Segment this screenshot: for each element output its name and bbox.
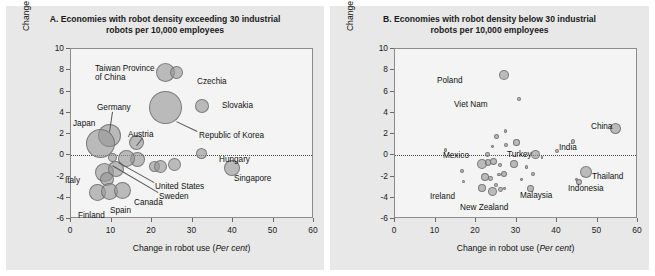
series-label-of-china: of China xyxy=(95,73,126,82)
y-tick-label-a-8: 8 xyxy=(42,65,64,73)
series-label-thailand: Thailand xyxy=(592,172,623,181)
x-axis-title-a-close: ) xyxy=(247,243,250,253)
y-tick-mark-b-2 xyxy=(390,133,394,134)
bubble-new-zealand[interactable] xyxy=(488,187,497,196)
series-label-ireland: Ireland xyxy=(430,192,455,201)
y-tick-label-a-0: 0 xyxy=(42,150,64,158)
bubble-czechia[interactable] xyxy=(170,66,183,79)
y-tick-mark-a-10 xyxy=(66,48,70,49)
bubble-thailand[interactable] xyxy=(580,166,592,178)
x-tick-mark-b-60 xyxy=(637,218,638,222)
x-tick-mark-b-50 xyxy=(597,218,598,222)
bubble-mexico[interactable] xyxy=(485,152,490,157)
x-tick-label-b-10: 10 xyxy=(423,226,447,234)
x-tick-label-a-10: 10 xyxy=(99,226,123,234)
bubble-canada[interactable] xyxy=(114,182,131,199)
bubble-unlabeled-4[interactable] xyxy=(168,158,181,171)
bubble-hungary[interactable] xyxy=(196,148,207,159)
x-tick-mark-a-30 xyxy=(192,218,193,222)
y-tick-label-b-neg4: -4 xyxy=(366,193,388,201)
panel-b-title-line2: robots per 10,000 employees xyxy=(431,25,549,35)
series-label-united-states: United States xyxy=(155,182,204,191)
x-tick-mark-a-50 xyxy=(273,218,274,222)
bubble-unlabeled-1[interactable] xyxy=(504,129,508,133)
bubble-unlabeled-12[interactable] xyxy=(498,163,502,167)
bubble-slovakia[interactable] xyxy=(195,99,209,113)
x-tick-mark-a-40 xyxy=(232,218,233,222)
y-axis-title-b-line2: (Percentage points) xyxy=(356,0,366,46)
y-axis-title-b-line1: Change in manufacturing output share xyxy=(346,0,356,46)
x-tick-mark-b-40 xyxy=(556,218,557,222)
panel-a-title: A. Economies with robot density exceedin… xyxy=(12,14,318,36)
y-tick-label-b-10: 10 xyxy=(366,44,388,52)
bubble-unlabeled-5[interactable] xyxy=(491,145,494,148)
bubble-unlabeled-8[interactable] xyxy=(541,156,544,159)
x-tick-label-b-20: 20 xyxy=(463,226,487,234)
bubble-unlabeled-23[interactable] xyxy=(462,180,465,183)
bubble-unlabeled-17[interactable] xyxy=(501,171,507,177)
series-label-republic-of-korea: Republic of Korea xyxy=(199,131,264,140)
bubble-unlabeled-20[interactable] xyxy=(488,176,493,181)
series-label-malaysia: Malaysia xyxy=(520,191,552,200)
x-axis-title-a: Change in robot use (Per cent) xyxy=(70,243,313,253)
bubble-poland[interactable] xyxy=(499,70,509,80)
x-tick-mark-a-10 xyxy=(111,218,112,222)
bubble-unlabeled-13[interactable] xyxy=(510,160,518,168)
y-tick-mark-a-4 xyxy=(66,112,70,113)
x-tick-mark-a-20 xyxy=(151,218,152,222)
y-tick-mark-a-neg4 xyxy=(66,197,70,198)
bubble-unlabeled-3[interactable] xyxy=(154,160,167,173)
series-label-slovakia: Slovakia xyxy=(222,101,253,110)
x-axis-title-b-unit: Per cent xyxy=(539,243,571,253)
y-tick-mark-b-0 xyxy=(390,154,394,155)
bubble-unlabeled-3[interactable] xyxy=(513,139,519,145)
bubble-unlabeled-14[interactable] xyxy=(525,165,528,168)
series-label-germany: Germany xyxy=(97,103,131,112)
panel-b-title: B. Economies with robot density below 30… xyxy=(336,14,643,36)
series-label-japan: Japan xyxy=(73,119,95,128)
x-tick-mark-b-10 xyxy=(435,218,436,222)
x-axis-title-b: Change in robot use (Per cent) xyxy=(394,243,637,253)
series-label-spain: Spain xyxy=(110,206,131,215)
y-tick-label-a-4: 4 xyxy=(42,108,64,116)
bubble-unlabeled-11[interactable] xyxy=(490,158,497,165)
x-tick-label-b-50: 50 xyxy=(585,226,609,234)
x-tick-mark-b-20 xyxy=(475,218,476,222)
y-tick-mark-b-10 xyxy=(390,48,394,49)
series-label-mexico: Mexico xyxy=(443,151,469,160)
y-tick-label-a-neg2: -2 xyxy=(42,172,64,180)
y-tick-mark-a-0 xyxy=(66,154,70,155)
x-tick-label-a-0: 0 xyxy=(58,226,82,234)
bubble-unlabeled-4[interactable] xyxy=(504,143,508,147)
y-tick-label-b-neg2: -2 xyxy=(366,172,388,180)
series-label-poland: Poland xyxy=(437,76,463,85)
bubble-ireland[interactable] xyxy=(478,184,486,192)
series-label-india: India xyxy=(559,143,577,152)
y-tick-mark-b-neg4 xyxy=(390,197,394,198)
x-tick-label-b-40: 40 xyxy=(544,226,568,234)
y-tick-label-a-6: 6 xyxy=(42,87,64,95)
bubble-viet-nam[interactable] xyxy=(517,97,521,101)
bubble-unlabeled-18[interactable] xyxy=(497,173,501,177)
y-tick-label-b-neg6: -6 xyxy=(366,214,388,222)
y-tick-mark-a-2 xyxy=(66,133,70,134)
bubble-unlabeled-21[interactable] xyxy=(520,178,523,181)
y-tick-mark-a-8 xyxy=(66,69,70,70)
x-tick-label-a-20: 20 xyxy=(139,226,163,234)
bubble-turkey[interactable] xyxy=(531,150,540,159)
x-tick-label-b-30: 30 xyxy=(504,226,528,234)
panel-a-title-line1: A. Economies with robot density exceedin… xyxy=(50,14,281,24)
y-tick-label-b-2: 2 xyxy=(366,129,388,137)
x-axis-title-a-text: Change in robot use ( xyxy=(133,243,216,253)
bubble-republic-of-korea[interactable] xyxy=(149,91,182,124)
bubble-unlabeled-16[interactable] xyxy=(531,172,535,176)
panel-b-title-line1: B. Economies with robot density below 30… xyxy=(383,14,596,24)
y-tick-mark-b-4 xyxy=(390,112,394,113)
y-axis-title-a-line1: Change in manufacturing output share xyxy=(22,0,32,46)
x-tick-mark-b-0 xyxy=(394,218,395,222)
bubble-unlabeled-25[interactable] xyxy=(503,187,506,190)
bubble-unlabeled-2[interactable] xyxy=(494,134,499,139)
series-label-new-zealand: New Zealand xyxy=(460,203,508,212)
bubble-unlabeled-26[interactable] xyxy=(498,187,503,192)
bubble-unlabeled-15[interactable] xyxy=(460,169,464,173)
